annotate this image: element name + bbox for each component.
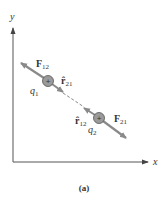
label-r21: r̂21 — [61, 75, 73, 88]
unit-vector-r12-arrow — [84, 108, 95, 115]
label-q2: q2 — [88, 124, 97, 137]
coulomb-force-diagram: y x + + F12 r̂21 q1 r̂12 F21 q2 (a) — [0, 0, 168, 202]
label-f12: F12 — [36, 58, 50, 71]
label-f21: F21 — [114, 113, 128, 126]
x-axis-label: x — [152, 156, 158, 167]
charge-q2: + — [94, 113, 105, 124]
label-q1: q1 — [30, 85, 39, 98]
separation-dashed-line — [63, 93, 84, 107]
label-r12: r̂12 — [75, 115, 87, 128]
plus-icon: + — [46, 77, 51, 86]
plus-icon: + — [97, 114, 102, 123]
y-axis-label: y — [9, 11, 15, 22]
figure-caption: (a) — [79, 183, 90, 193]
charge-q1: + — [43, 76, 54, 87]
